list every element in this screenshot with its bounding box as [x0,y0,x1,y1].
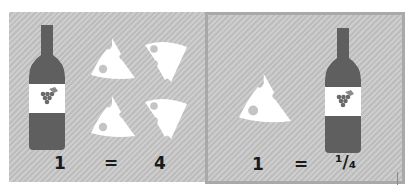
equation-rhs: 4 [154,153,166,173]
equation-operator: = [104,153,118,173]
equation-rhs: ¹/₄ [335,152,356,172]
cheese-wedge-icon [91,38,136,83]
equation-lhs: 1 [252,154,264,174]
cheese-wedge-icon [143,40,188,85]
equation-operator: = [294,154,308,174]
right-panel: 1 = ¹/₄ [205,12,405,184]
wine-bottle-icon [325,28,361,153]
cheese-wedge-icon [143,97,188,142]
corner-tick-mark [397,172,398,185]
cheese-wedge-icon [91,96,136,141]
wine-bottle-icon [29,25,65,150]
cheese-wedge-icon [238,74,293,127]
left-panel: 1 = 4 [9,12,205,182]
equation-lhs: 1 [54,153,66,173]
